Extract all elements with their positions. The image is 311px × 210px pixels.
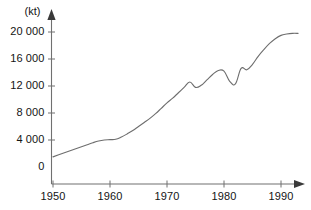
x-axis-tick-label: 1950 (23, 191, 83, 202)
x-axis-tick-label: 1980 (194, 191, 254, 202)
y-axis-tick-label: 8 000 (16, 107, 44, 118)
chart-plot-area (0, 0, 311, 210)
y-axis-tick-label: 16 000 (10, 53, 44, 64)
y-axis-tick-label: 20 000 (10, 26, 44, 37)
y-axis-tick-label: 12 000 (10, 80, 44, 91)
x-axis-arrowhead (294, 180, 305, 188)
y-axis-tick-label: 0 (38, 161, 44, 172)
y-axis-arrowhead (47, 9, 55, 20)
data-series-line (53, 33, 298, 157)
y-axis-tick-label: 4 000 (16, 134, 44, 145)
x-axis-tick-label: 1960 (80, 191, 140, 202)
x-axis-tick-label: 1990 (251, 191, 311, 202)
x-axis-tick-label: 1970 (137, 191, 197, 202)
y-axis-unit-label: (kt) (25, 6, 41, 17)
line-chart: (kt) 04 0008 00012 00016 00020 000 19501… (0, 0, 311, 210)
